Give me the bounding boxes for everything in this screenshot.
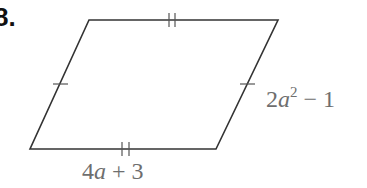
constant-term: + 3 [106,158,144,184]
coefficient: 2 [266,86,278,112]
exponent: 2 [290,84,298,100]
constant-term: − 1 [298,86,336,112]
coefficient: 4 [82,158,94,184]
right-side-length-label: 2a2 − 1 [266,87,335,111]
variable: a [94,158,106,184]
bottom-side-length-label: 4a + 3 [82,159,144,183]
variable: a [278,86,290,112]
